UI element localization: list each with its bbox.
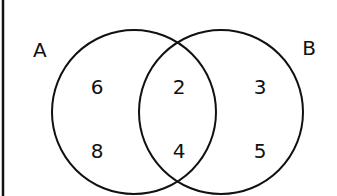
intersection-value-bottom: 4 [173, 139, 186, 163]
circle-b [139, 30, 303, 194]
b-only-value-bottom: 5 [254, 139, 267, 163]
intersection-value-top: 2 [173, 75, 186, 99]
set-a-label: A [33, 38, 47, 62]
set-b-label: B [302, 36, 316, 60]
circle-a [52, 30, 216, 194]
venn-diagram: A B 6 8 2 4 3 5 [0, 0, 337, 196]
b-only-value-top: 3 [254, 75, 267, 99]
a-only-value-bottom: 8 [91, 139, 104, 163]
a-only-value-top: 6 [91, 75, 104, 99]
